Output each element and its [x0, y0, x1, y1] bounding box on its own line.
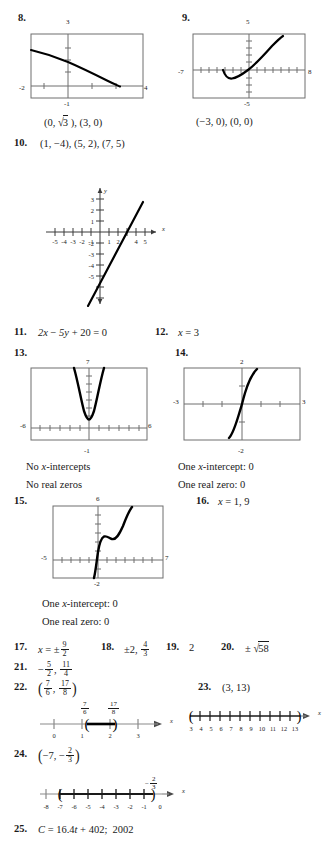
item-10-number: 10. — [14, 137, 27, 148]
item-12-number: 12. — [155, 326, 168, 337]
svg-text:3: 3 — [189, 725, 192, 732]
item-13-answer-line-2: No real zeros — [26, 478, 82, 491]
svg-text:13: 13 — [292, 725, 298, 732]
svg-text:-3: -3 — [89, 251, 94, 258]
svg-text:2: 2 — [116, 238, 119, 245]
item-23-numberline: ( ) 345 678 91011 1213 x — [182, 702, 330, 736]
item-22-numberline-right-label: 178 — [107, 697, 120, 716]
item-16-answer: x = 1, 9 — [218, 495, 250, 508]
item-10-answer: (1, −4), (5, 2), (7, 5) — [40, 137, 125, 150]
item-8-left-label: -2 — [19, 84, 25, 92]
item-18-answer: ±2, 43 — [124, 641, 150, 658]
item-22-answer: (76, 178) — [38, 680, 77, 698]
svg-text:0: 0 — [52, 732, 55, 739]
svg-text:-2: -2 — [127, 803, 132, 810]
item-13-bottom-label: -1 — [84, 447, 90, 455]
fraction-4-3: 43 — [141, 641, 149, 658]
item-13-right-label: 6 — [148, 422, 152, 430]
svg-text:2: 2 — [91, 207, 94, 214]
svg-text:5: 5 — [143, 238, 146, 245]
item-8-right-label: 4 — [144, 84, 148, 92]
svg-text:11: 11 — [270, 725, 276, 732]
item-15-answer-line-2: One real zero: 0 — [42, 615, 109, 628]
svg-text:-8: -8 — [43, 803, 48, 810]
item-14-bottom-label: -2 — [238, 447, 244, 455]
svg-text:1: 1 — [80, 732, 83, 739]
svg-text:-4: -4 — [89, 262, 95, 269]
item-14-graph — [183, 366, 305, 446]
item-15-number: 15. — [14, 495, 27, 506]
sqrt-icon: √58 — [253, 641, 268, 655]
svg-text:3: 3 — [136, 732, 139, 739]
svg-text:4: 4 — [134, 238, 138, 245]
fraction-9-2: 92 — [61, 641, 69, 658]
svg-text:): ) — [113, 716, 118, 733]
svg-text:x: x — [169, 717, 173, 724]
item-9-left-label: -7 — [178, 68, 184, 76]
svg-text:y: y — [103, 187, 107, 194]
item-8-answer: (0, √3 ), (3, 0) — [44, 115, 102, 129]
item-22-number: 22. — [14, 681, 27, 692]
svg-text:-2: -2 — [89, 240, 94, 247]
item-15-right-label: 7 — [165, 554, 169, 562]
item-9-top-label: 5 — [246, 18, 250, 26]
svg-text:x: x — [181, 787, 185, 794]
item-13-top-label: 7 — [86, 358, 90, 366]
svg-text:1: 1 — [91, 218, 94, 225]
item-14-answer-line-1: One x-intercept: 0 — [178, 460, 254, 473]
item-13-number: 13. — [14, 347, 27, 358]
sqrt-icon: √3 — [58, 115, 68, 129]
item-10-graph: -5-4-3 -2-1 12 45 321 -2-3 -4-5 x y — [38, 182, 168, 307]
svg-text:-3: -3 — [70, 238, 75, 245]
svg-text:-5: -5 — [52, 238, 57, 245]
item-9-graph — [192, 26, 312, 104]
item-9-right-label: 8 — [308, 68, 312, 76]
item-25-answer: C = 16.4t + 402; 2002 — [38, 823, 134, 836]
item-24-answer: (−7, −23) — [38, 747, 80, 765]
item-14-answer-line-2: One real zero: 0 — [178, 478, 245, 491]
svg-text:(: ( — [58, 787, 63, 803]
item-15-left-label: -5 — [41, 554, 47, 562]
item-23-answer: (3, 13) — [222, 681, 250, 694]
item-20-answer: ± √58 — [245, 641, 269, 655]
item-8-bottom-label: -1 — [64, 100, 70, 108]
svg-text:(: ( — [189, 709, 194, 725]
svg-text:12: 12 — [281, 725, 287, 732]
item-15-bottom-label: -2 — [94, 580, 100, 588]
item-13-graph — [30, 366, 152, 446]
item-15-top-label: 6 — [96, 495, 100, 503]
item-9-answer: (−3, 0), (0, 0) — [196, 115, 253, 128]
item-14-left-label: -3 — [173, 398, 179, 406]
item-13-left-label: -6 — [20, 422, 26, 430]
svg-text:-4: -4 — [61, 238, 67, 245]
item-24-number: 24. — [14, 748, 27, 759]
svg-text:3: 3 — [91, 196, 94, 203]
svg-text:-2: -2 — [79, 238, 84, 245]
svg-text:8: 8 — [239, 725, 242, 732]
svg-text:-5: -5 — [85, 803, 90, 810]
svg-text:6: 6 — [219, 725, 222, 732]
fraction-11-4: 114 — [60, 661, 72, 678]
item-24-numberline: ( ) -8-7-6 -5-4-3 -2-10 x — [32, 778, 192, 816]
item-15-graph — [50, 502, 168, 582]
svg-text:(: ( — [85, 716, 90, 733]
item-18-number: 18. — [101, 641, 114, 652]
item-16-number: 16. — [196, 495, 209, 506]
item-12-answer: x = 3 — [178, 326, 199, 339]
item-19-number: 19. — [166, 641, 179, 652]
svg-text:1: 1 — [107, 238, 110, 245]
item-15-answer-line-1: One x-intercept: 0 — [42, 597, 118, 610]
item-25-number: 25. — [14, 823, 27, 834]
svg-text:-6: -6 — [71, 803, 76, 810]
item-11-number: 11. — [14, 326, 27, 337]
svg-text:7: 7 — [229, 725, 232, 732]
item-14-top-label: 2 — [240, 358, 244, 366]
item-8-top-label: 3 — [66, 18, 70, 26]
svg-text:9: 9 — [249, 725, 252, 732]
svg-text:-7: -7 — [57, 803, 62, 810]
item-21-answer: −52, 114 — [38, 661, 73, 678]
item-23-number: 23. — [198, 681, 211, 692]
item-8-number: 8. — [18, 12, 26, 23]
svg-text:4: 4 — [199, 725, 203, 732]
svg-text:-5: -5 — [89, 273, 94, 280]
